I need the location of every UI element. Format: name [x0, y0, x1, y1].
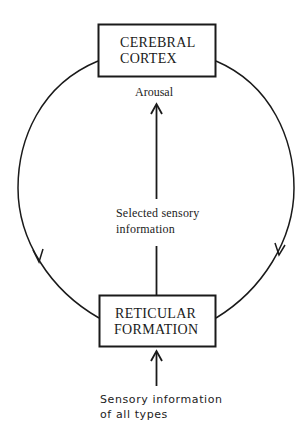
arousal-label: Arousal [135, 85, 173, 100]
reticular-formation-label-line2: FORMATION [114, 323, 198, 337]
reticular-formation-label-line1: RETICULAR [115, 307, 196, 321]
sensory-input-label-line2: of all types [100, 407, 168, 422]
cerebral-cortex-label-line1: CEREBRAL [120, 36, 196, 50]
selected-sensory-label-line1: Selected sensory [116, 206, 200, 221]
left-feedback-arc [18, 61, 99, 318]
selected-sensory-label-line2: information [116, 222, 175, 237]
sensory-input-label-line1: Sensory information [100, 392, 223, 407]
reticular-formation-box [100, 296, 216, 347]
cerebral-cortex-label-line2: CORTEX [120, 52, 177, 66]
right-feedback-arc [216, 61, 294, 318]
